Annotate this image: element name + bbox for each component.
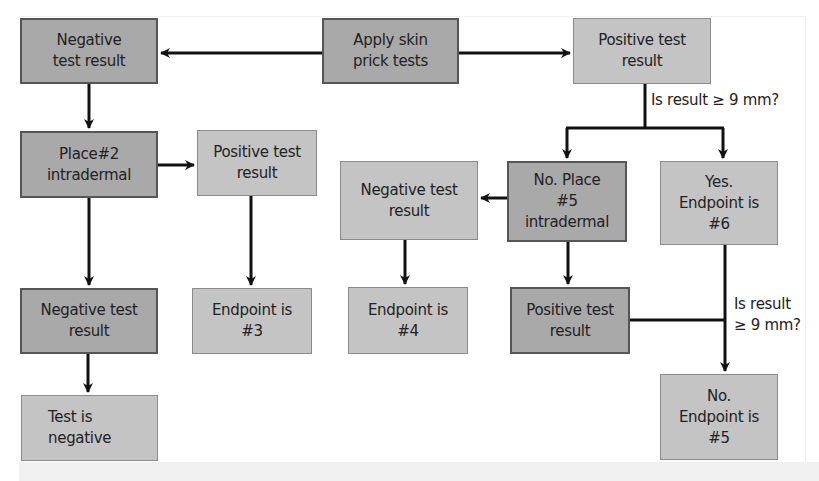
- node-label: Test is negative: [48, 407, 111, 449]
- node-label: Negative test result: [53, 30, 126, 72]
- node-no-place-5-intradermal: No. Place #5 intradermal: [507, 161, 627, 242]
- node-label: Positive test result: [598, 30, 686, 72]
- node-label: Negative test result: [361, 180, 458, 222]
- node-positive-test-result-1: Positive test result: [573, 18, 711, 84]
- node-test-is-negative: Test is negative: [21, 395, 158, 461]
- node-label: Yes. Endpoint is #6: [679, 172, 759, 235]
- node-label: Endpoint is #4: [368, 300, 448, 342]
- node-negative-test-result-2: Negative test result: [20, 288, 158, 354]
- node-label: Apply skin prick tests: [353, 30, 428, 72]
- node-negative-test-result-mid: Negative test result: [340, 161, 478, 240]
- node-place-2-intradermal: Place#2 intradermal: [20, 131, 158, 198]
- edge-label-question-1: Is result ≥ 9 mm?: [651, 90, 779, 111]
- node-endpoint-4: Endpoint is #4: [348, 287, 468, 354]
- node-label: Positive test result: [526, 300, 614, 342]
- node-label: No. Endpoint is #5: [679, 386, 759, 449]
- node-label: Positive test result: [213, 142, 301, 184]
- node-label: Place#2 intradermal: [47, 144, 131, 186]
- node-yes-endpoint-6: Yes. Endpoint is #6: [660, 161, 778, 245]
- node-no-endpoint-5: No. Endpoint is #5: [660, 374, 778, 460]
- node-negative-test-result-1: Negative test result: [20, 18, 158, 84]
- node-positive-test-result-3: Positive test result: [510, 287, 630, 354]
- node-endpoint-3: Endpoint is #3: [192, 288, 312, 354]
- node-label: Endpoint is #3: [212, 300, 292, 342]
- node-label: Negative test result: [41, 300, 138, 342]
- node-positive-test-result-2: Positive test result: [197, 130, 317, 196]
- node-label: No. Place #5 intradermal: [525, 170, 609, 233]
- edge-label-question-2: Is result ≥ 9 mm?: [734, 294, 801, 336]
- node-apply-skin-prick-tests: Apply skin prick tests: [322, 18, 459, 84]
